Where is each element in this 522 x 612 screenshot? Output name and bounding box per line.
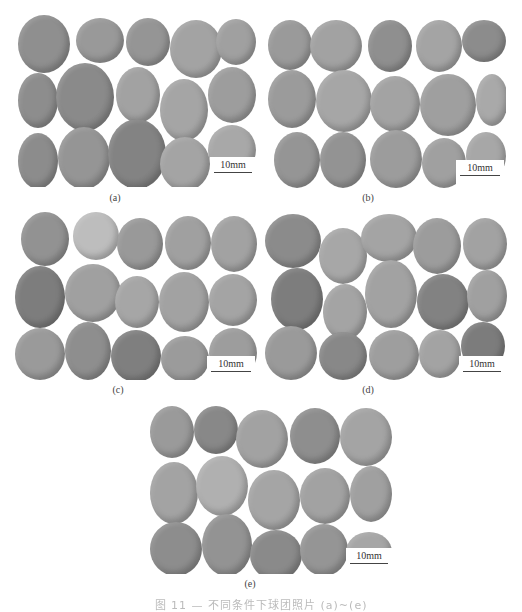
panel-a: 10mm	[18, 15, 256, 187]
pellet-image	[21, 212, 69, 266]
pellet-image	[58, 127, 110, 187]
panel-label-d: (d)	[348, 384, 388, 395]
pellet-image	[18, 133, 58, 187]
pellet-image	[211, 216, 257, 272]
scale-bar-label: 10mm	[356, 550, 382, 561]
pellet-image	[350, 466, 392, 522]
panel-d: 10mm	[265, 214, 507, 380]
pellet-image	[467, 270, 507, 322]
pellet-image	[271, 268, 323, 330]
pellet-image	[18, 73, 58, 128]
pellet-image	[209, 274, 257, 326]
scale-bar: 10mm	[207, 356, 255, 380]
pellet-image	[417, 274, 469, 330]
scale-bar-line	[350, 563, 388, 564]
pellet-image	[161, 336, 209, 380]
panel-label-b: (b)	[348, 192, 388, 203]
scale-bar-line	[460, 175, 500, 176]
pellet-image	[420, 74, 476, 136]
pellet-image	[202, 514, 252, 574]
pellet-image	[150, 406, 194, 458]
pellet-image	[150, 522, 202, 574]
pellet-image	[116, 67, 160, 123]
pellet-image	[290, 408, 340, 464]
pellet-image	[416, 20, 462, 72]
pellet-image	[370, 76, 420, 132]
scale-bar: 10mm	[210, 157, 256, 181]
panel-label-a: (a)	[95, 192, 135, 203]
scale-bar-label: 10mm	[220, 159, 246, 170]
pellet-image	[208, 67, 256, 123]
pellet-image	[300, 468, 350, 524]
pellet-image	[413, 218, 461, 274]
pellet-image	[216, 19, 256, 65]
pellet-image	[361, 214, 417, 262]
pellet-image	[476, 74, 506, 126]
pellet-image	[250, 530, 302, 574]
pellet-image	[268, 20, 312, 70]
scale-bar-line	[463, 371, 501, 372]
pellet-image	[310, 20, 362, 72]
panel-label-e: (e)	[230, 578, 270, 589]
scale-bar-label: 10mm	[218, 358, 244, 369]
pellet-image	[73, 212, 119, 260]
panel-c: 10mm	[15, 212, 257, 380]
pellet-image	[194, 406, 238, 454]
pellet-image	[463, 218, 507, 270]
scale-bar: 10mm	[346, 548, 392, 572]
pellet-image	[111, 330, 161, 380]
pellet-image	[319, 332, 367, 380]
pellet-image	[15, 266, 65, 328]
scale-bar-label: 10mm	[469, 358, 495, 369]
figure-caption: 图 11 — 不同条件下球团照片 (a)~(e)	[0, 596, 522, 612]
pellet-image	[196, 456, 248, 516]
pellet-image	[320, 132, 366, 188]
pellet-image	[265, 214, 321, 268]
pellet-image	[370, 130, 422, 188]
pellet-image	[316, 70, 372, 132]
pellet-image	[108, 119, 166, 187]
scale-bar-line	[211, 371, 251, 372]
pellet-image	[159, 272, 209, 332]
pellet-image	[56, 63, 114, 131]
panel-b: 10mm	[268, 20, 506, 188]
pellet-image	[117, 218, 163, 270]
pellet-image	[165, 216, 211, 270]
panel-label-c: (c)	[98, 384, 138, 395]
pellet-image	[300, 524, 348, 574]
pellet-image	[65, 264, 121, 322]
pellet-image	[265, 326, 317, 380]
pellet-image	[274, 132, 320, 188]
pellet-image	[18, 15, 70, 73]
scale-bar: 10mm	[459, 356, 505, 380]
pellet-image	[419, 330, 461, 378]
pellet-image	[65, 322, 111, 380]
pellet-image	[248, 470, 300, 530]
pellet-image	[150, 462, 198, 524]
pellet-image	[319, 228, 367, 284]
pellet-image	[369, 330, 419, 380]
pellet-image	[236, 410, 288, 468]
pellet-image	[160, 137, 210, 187]
pellet-image	[368, 20, 412, 72]
pellet-image	[126, 18, 170, 66]
pellet-image	[268, 70, 316, 128]
scale-bar-line	[214, 172, 252, 173]
pellet-image	[462, 20, 506, 62]
pellet-image	[170, 20, 222, 78]
pellet-image	[76, 18, 124, 63]
pellet-image	[365, 260, 417, 328]
pellet-image	[340, 408, 392, 466]
scale-bar-label: 10mm	[467, 162, 493, 173]
pellet-image	[160, 79, 208, 141]
pellet-image	[115, 276, 159, 328]
pellet-image	[15, 328, 65, 380]
scale-bar: 10mm	[456, 160, 504, 184]
panel-e: 10mm	[150, 406, 392, 574]
